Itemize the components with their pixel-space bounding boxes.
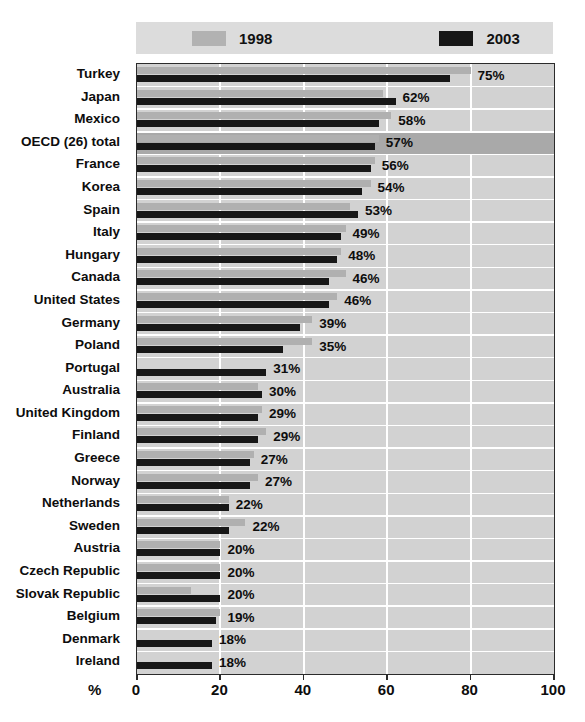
bar-value-label: 35% xyxy=(319,339,346,354)
bar-1998 xyxy=(137,519,245,526)
bar-value-label: 39% xyxy=(319,316,346,331)
category-label-austria: Austria xyxy=(73,540,120,555)
category-label-australia: Australia xyxy=(62,382,120,397)
bar-1998 xyxy=(137,406,262,413)
x-tick-label-0: 0 xyxy=(132,681,140,698)
row-separator xyxy=(137,267,554,269)
category-label-finland: Finland xyxy=(72,427,120,442)
x-tick-mark-80 xyxy=(470,674,472,680)
bar-value-label: 20% xyxy=(227,542,254,557)
category-label-czech-republic: Czech Republic xyxy=(19,563,120,578)
bar-value-label: 48% xyxy=(348,248,375,263)
bar-value-label: 56% xyxy=(382,158,409,173)
row-separator xyxy=(137,86,554,88)
row-separator xyxy=(137,312,554,314)
chart-row: 49% xyxy=(137,222,554,245)
chart-row: 29% xyxy=(137,403,554,426)
row-separator xyxy=(137,447,554,449)
category-label-denmark: Denmark xyxy=(62,631,120,646)
bar-2003 xyxy=(137,98,396,105)
row-separator xyxy=(137,131,554,133)
category-label-turkey: Turkey xyxy=(77,66,120,81)
chart-title xyxy=(0,0,585,2)
chart-row: 20% xyxy=(137,584,554,607)
row-separator xyxy=(137,628,554,630)
category-label-poland: Poland xyxy=(75,337,120,352)
x-tick-mark-20 xyxy=(219,674,221,680)
bar-value-label: 18% xyxy=(219,632,246,647)
bar-value-label: 19% xyxy=(227,610,254,625)
row-separator xyxy=(137,357,554,359)
bar-1998 xyxy=(137,496,229,503)
bar-1998 xyxy=(137,451,254,458)
bar-2003 xyxy=(137,662,212,669)
chart-plot-area: 75%62%58%57%56%54%53%49%48%46%46%39%35%3… xyxy=(136,63,555,675)
bar-2003 xyxy=(137,233,341,240)
legend-swatch-1998-icon xyxy=(192,31,226,46)
bar-2003 xyxy=(137,165,371,172)
row-separator xyxy=(137,538,554,540)
legend-item-1998: 1998 xyxy=(192,30,272,47)
bar-1998 xyxy=(137,293,337,300)
x-tick-mark-60 xyxy=(386,674,388,680)
row-separator xyxy=(137,493,554,495)
legend-label-1998: 1998 xyxy=(239,30,272,47)
bar-1998 xyxy=(137,67,471,74)
category-label-greece: Greece xyxy=(74,450,120,465)
category-label-united-kingdom: United Kingdom xyxy=(16,405,120,420)
bar-value-label: 75% xyxy=(478,68,505,83)
row-separator xyxy=(137,470,554,472)
category-label-hungary: Hungary xyxy=(65,247,120,262)
bar-value-label: 20% xyxy=(227,565,254,580)
bar-value-label: 29% xyxy=(273,429,300,444)
chart-row: 62% xyxy=(137,87,554,110)
category-label-france: France xyxy=(76,156,120,171)
bar-2003 xyxy=(137,459,250,466)
bar-value-label: 62% xyxy=(403,90,430,105)
bar-value-label: 27% xyxy=(265,474,292,489)
bar-2003 xyxy=(137,75,450,82)
bar-2003 xyxy=(137,301,329,308)
bar-1998 xyxy=(137,564,220,571)
bar-2003 xyxy=(137,527,229,534)
bar-value-label: 46% xyxy=(353,271,380,286)
bar-1998 xyxy=(137,316,312,323)
bar-1998 xyxy=(137,338,312,345)
chart-row: 29% xyxy=(137,425,554,448)
bar-2003 xyxy=(137,143,375,150)
bar-1998 xyxy=(137,225,346,232)
bar-1998 xyxy=(137,383,258,390)
bar-2003 xyxy=(137,211,358,218)
chart-row: 20% xyxy=(137,538,554,561)
bar-2003 xyxy=(137,256,337,263)
row-separator xyxy=(137,154,554,156)
bar-2003 xyxy=(137,640,212,647)
bar-1998 xyxy=(137,90,383,97)
chart-row: 53% xyxy=(137,200,554,223)
bar-1998 xyxy=(137,248,341,255)
legend-swatch-2003-icon xyxy=(439,31,473,46)
bar-1998 xyxy=(137,157,375,164)
chart-row: 54% xyxy=(137,177,554,200)
row-separator xyxy=(137,108,554,110)
x-tick-label-40: 40 xyxy=(294,681,311,698)
row-separator xyxy=(137,334,554,336)
category-label-italy: Italy xyxy=(93,224,120,239)
bar-2003 xyxy=(137,572,220,579)
category-label-united-states: United States xyxy=(34,292,120,307)
row-separator xyxy=(137,221,554,223)
x-tick-mark-100 xyxy=(553,674,555,680)
bar-1998 xyxy=(137,587,191,594)
bar-value-label: 49% xyxy=(353,226,380,241)
bar-value-label: 20% xyxy=(227,587,254,602)
chart-row: 75% xyxy=(137,64,554,87)
bar-1998 xyxy=(137,474,258,481)
bar-1998 xyxy=(137,203,350,210)
bar-value-label: 54% xyxy=(378,180,405,195)
bar-2003 xyxy=(137,188,362,195)
chart-row: 19% xyxy=(137,606,554,629)
chart-row: 35% xyxy=(137,335,554,358)
bar-value-label: 30% xyxy=(269,384,296,399)
chart-row: 30% xyxy=(137,380,554,403)
bar-1998 xyxy=(137,609,220,616)
